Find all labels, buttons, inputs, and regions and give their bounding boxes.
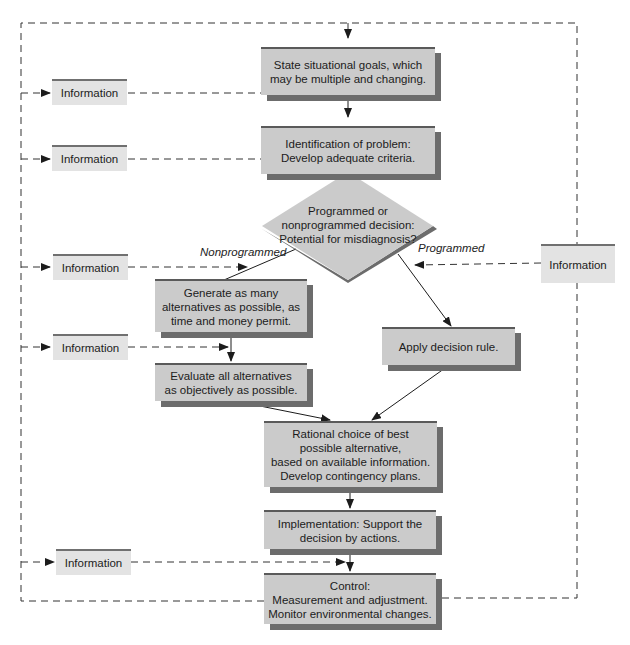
info-box-5: Information [56,549,131,575]
info-box-3: Information [53,254,128,280]
info-box-2: Information [52,145,127,171]
step-generate-alternatives: Generate as many alternatives as possibl… [155,279,307,332]
decision-text: Programmed or nonprogrammed decision: Po… [270,204,426,246]
step-evaluate-alternatives: Evaluate all alternatives as objectively… [155,363,307,401]
step-apply-decision-rule: Apply decision rule. [382,327,515,365]
info-box-external: Information [541,244,615,283]
branch-label-nonprogrammed: Nonprogrammed [200,246,286,258]
info-box-1: Information [52,79,127,105]
step-identify-problem-text: Identification of problem: Develop adequ… [281,137,415,165]
step-identify-problem: Identification of problem: Develop adequ… [261,126,435,174]
step-generate-alternatives-text: Generate as many alternatives as possibl… [162,286,300,328]
step-apply-decision-rule-text: Apply decision rule. [399,340,499,354]
step-control-text: Control: Measurement and adjustment. Mon… [268,579,432,621]
step-implementation: Implementation: Support the decision by … [264,510,436,549]
info-box-4: Information [53,334,128,360]
step-rational-choice-text: Rational choice of best possible alterna… [271,427,430,483]
step-evaluate-alternatives-text: Evaluate all alternatives as objectively… [165,369,298,397]
step-goals: State situational goals, which may be mu… [261,47,435,95]
step-control: Control: Measurement and adjustment. Mon… [264,573,436,624]
step-implementation-text: Implementation: Support the decision by … [278,517,422,545]
step-rational-choice: Rational choice of best possible alterna… [264,421,437,487]
branch-label-programmed: Programmed [418,242,484,254]
step-goals-text: State situational goals, which may be mu… [270,58,426,86]
